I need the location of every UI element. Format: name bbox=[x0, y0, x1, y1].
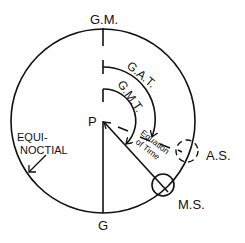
label-p: P bbox=[88, 114, 97, 129]
label-equinoctial-1: EQUI- bbox=[17, 131, 48, 143]
label-g: G bbox=[98, 218, 108, 233]
label-equinoctial-2: NOCTIAL bbox=[20, 144, 68, 156]
mean-sun-marker bbox=[152, 174, 174, 196]
label-ms: M.S. bbox=[178, 197, 205, 212]
equinoctial-pointer bbox=[29, 155, 46, 172]
label-gm: G.M. bbox=[90, 12, 118, 27]
equation-of-time-diagram: G.M. G P G.A.T. G.M.T. Equation of Time … bbox=[0, 0, 245, 243]
label-as: A.S. bbox=[206, 148, 231, 163]
